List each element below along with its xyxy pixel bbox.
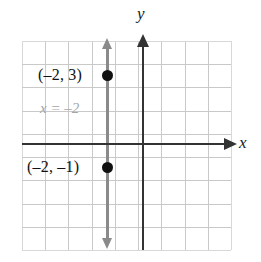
gridline-vertical	[92, 41, 93, 250]
equation-label: x = –2	[40, 100, 79, 117]
vertical-line-down-arrow-icon	[102, 238, 112, 249]
x-axis-line	[22, 143, 228, 145]
gridline-vertical	[161, 41, 162, 250]
gridline-horizontal	[22, 204, 231, 205]
point-label-lower: (–2, –1)	[27, 158, 79, 176]
y-axis-label: y	[137, 4, 145, 24]
plot-point-marker	[102, 162, 113, 173]
gridline-vertical	[115, 41, 116, 250]
gridline-horizontal	[22, 227, 231, 228]
graph-figure: x y (–2, 3) (–2, –1) x = –2	[0, 0, 261, 262]
gridline-horizontal	[22, 87, 231, 88]
y-axis-line	[142, 46, 144, 250]
plot-point-marker	[102, 70, 113, 81]
gridline-horizontal	[22, 250, 231, 251]
gridline-horizontal	[22, 64, 231, 65]
y-axis-arrow-icon	[137, 34, 149, 47]
gridline-vertical	[138, 41, 139, 250]
x-axis-arrow-icon	[224, 138, 237, 150]
point-label-upper: (–2, 3)	[38, 66, 82, 84]
x-axis-label: x	[239, 133, 247, 153]
gridline-horizontal	[22, 41, 231, 42]
gridline-vertical	[185, 41, 186, 250]
gridline-horizontal	[22, 180, 231, 181]
gridline-horizontal	[22, 134, 231, 135]
gridline-vertical	[208, 41, 209, 250]
gridline-vertical	[22, 41, 23, 250]
